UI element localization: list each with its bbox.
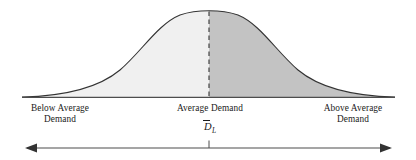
mean-demand-variable-letter: D — [204, 121, 212, 132]
mean-demand-subscript: L — [212, 126, 216, 135]
label-above-average-demand: Above Average Demand — [300, 103, 406, 125]
label-average-demand: Average Demand — [152, 103, 268, 114]
mean-demand-symbol: DL — [152, 121, 268, 135]
label-below-average-demand-line2: Demand — [8, 114, 112, 125]
range-arrow-right-head — [380, 143, 392, 152]
mean-demand-variable: D — [204, 121, 212, 132]
range-arrow-left-head — [25, 143, 37, 152]
normal-distribution-diagram: Below Average Demand Average Demand DL A… — [0, 0, 416, 160]
label-below-average-demand-line1: Below Average — [31, 103, 89, 113]
label-below-average-demand: Below Average Demand — [8, 103, 112, 125]
label-above-average-demand-line1: Above Average — [324, 103, 383, 113]
overbar-accent — [203, 120, 210, 121]
bell-curve-graphic — [0, 0, 416, 160]
label-above-average-demand-line2: Demand — [300, 114, 406, 125]
